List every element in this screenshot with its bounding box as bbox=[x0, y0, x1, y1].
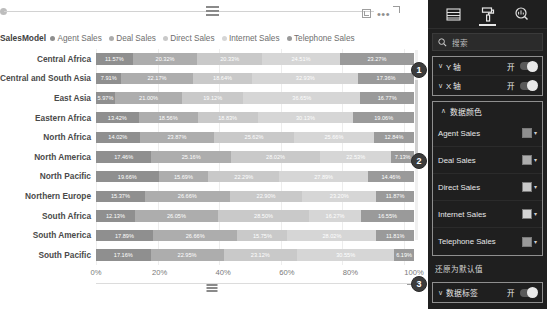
bar-segment[interactable]: 32.93% bbox=[252, 73, 358, 85]
chart-legend[interactable]: SalesModel Agent Sales Deal Sales Direct… bbox=[0, 31, 362, 45]
bar-segment[interactable]: 19.12% bbox=[182, 92, 243, 104]
bar-segment[interactable]: 16.55% bbox=[361, 210, 414, 222]
data-colors-header[interactable]: ∨ 数据颜色 bbox=[433, 102, 542, 120]
data-color-row[interactable]: Telephone Sales▾ bbox=[433, 228, 542, 255]
bar-segment[interactable]: 22.29% bbox=[208, 171, 279, 183]
bar-row[interactable]: South Africa12.13%26.05%28.50%16.27%16.5… bbox=[0, 206, 414, 226]
visual-header-actions[interactable]: ••• bbox=[362, 9, 390, 18]
bar-segment[interactable]: 24.51% bbox=[262, 53, 340, 65]
stacked-bar[interactable]: 17.46%25.16%28.02%22.53%7.13% bbox=[96, 151, 414, 163]
bar-row[interactable]: North Pacific19.66%15.69%22.29%27.89%14.… bbox=[0, 167, 414, 187]
bar-segment[interactable]: 23.20% bbox=[302, 191, 376, 203]
bar-segment[interactable]: 28.02% bbox=[287, 230, 376, 242]
bar-segment[interactable]: 36.65% bbox=[243, 92, 360, 104]
bar-segment[interactable]: 26.66% bbox=[153, 230, 238, 242]
bar-segment[interactable]: 11.81% bbox=[376, 230, 414, 242]
bar-segment[interactable]: 30.13% bbox=[258, 112, 354, 124]
bar-segment[interactable]: 11.57% bbox=[96, 53, 133, 65]
bar-segment[interactable]: 26.66% bbox=[145, 191, 230, 203]
data-color-row[interactable]: Agent Sales▾ bbox=[433, 120, 542, 147]
toggle-y-axis[interactable] bbox=[520, 62, 537, 70]
color-swatch-icon[interactable] bbox=[522, 209, 532, 219]
legend-item[interactable]: Deal Sales bbox=[109, 34, 163, 43]
chevron-up-icon[interactable]: ∨ bbox=[438, 107, 446, 115]
stacked-bar[interactable]: 17.16%22.95%23.12%30.55%6.19% bbox=[96, 249, 414, 261]
color-picker[interactable]: ▾ bbox=[522, 155, 537, 165]
chevron-down-icon[interactable]: ∨ bbox=[438, 289, 446, 297]
x-axis[interactable]: 0%20%40%60%80%100% bbox=[96, 266, 414, 288]
bar-segment[interactable]: 15.75% bbox=[237, 230, 287, 242]
color-swatch-icon[interactable] bbox=[522, 182, 532, 192]
bar-segment[interactable]: 20.32% bbox=[133, 53, 198, 65]
tab-fields[interactable] bbox=[444, 4, 463, 24]
stacked-bar[interactable]: 11.57%20.32%20.33%24.51%23.27% bbox=[96, 53, 414, 65]
chevron-down-icon[interactable]: ▾ bbox=[534, 184, 537, 190]
bar-segment[interactable]: 23.27% bbox=[340, 53, 414, 65]
bar-segment[interactable]: 11.87% bbox=[376, 191, 414, 203]
color-swatch-icon[interactable] bbox=[522, 128, 532, 138]
bar-row[interactable]: North America17.46%25.16%28.02%22.53%7.1… bbox=[0, 147, 414, 167]
legend-item[interactable]: Internet Sales bbox=[222, 34, 287, 43]
bar-segment[interactable]: 27.89% bbox=[279, 171, 368, 183]
chart-scrollbar[interactable] bbox=[415, 50, 418, 240]
bar-segment[interactable]: 14.02% bbox=[96, 132, 140, 144]
chevron-down-icon[interactable]: ∨ bbox=[438, 62, 446, 70]
chevron-down-icon[interactable]: ∨ bbox=[438, 82, 446, 90]
bar-segment[interactable]: 12.84% bbox=[374, 132, 414, 144]
restore-defaults-link[interactable]: 还原为默认值 bbox=[435, 263, 543, 274]
more-options-icon[interactable]: ••• bbox=[377, 11, 390, 17]
bar-segment[interactable]: 22.17% bbox=[121, 73, 192, 85]
bar-segment[interactable]: 15.37% bbox=[96, 191, 145, 203]
bar-row[interactable]: North Africa14.02%23.87%25.62%25.66%12.8… bbox=[0, 128, 414, 148]
legend-item[interactable]: Telephone Sales bbox=[287, 34, 362, 43]
data-color-row[interactable]: Internet Sales▾ bbox=[433, 201, 542, 228]
bar-segment[interactable]: 16.77% bbox=[360, 92, 414, 104]
option-row-x-axis[interactable]: ∨ X 轴 开 bbox=[433, 76, 542, 95]
bar-segment[interactable]: 22.95% bbox=[151, 249, 224, 261]
bar-segment[interactable]: 28.02% bbox=[231, 151, 320, 163]
stacked-bar[interactable]: 14.02%23.87%25.62%25.66%12.84% bbox=[96, 132, 414, 144]
bar-segment[interactable]: 7.91% bbox=[96, 73, 121, 85]
bar-row[interactable]: South Pacific17.16%22.95%23.12%30.55%6.1… bbox=[0, 245, 414, 265]
stacked-bar[interactable]: 17.89%26.66%15.75%28.02%11.81% bbox=[96, 230, 414, 242]
data-color-row[interactable]: Direct Sales▾ bbox=[433, 174, 542, 201]
chart-visual[interactable]: ••• SalesModel Agent Sales Deal Sales Di… bbox=[0, 0, 424, 309]
stacked-bar[interactable]: 5.97%21.00%19.12%36.65%16.77% bbox=[96, 92, 414, 104]
bar-segment[interactable]: 28.50% bbox=[218, 210, 309, 222]
resize-handle-bottom[interactable] bbox=[207, 284, 218, 288]
stacked-bar[interactable]: 7.91%22.17%18.64%32.93%17.36% bbox=[96, 73, 414, 85]
bar-row[interactable]: South America17.89%26.66%15.75%28.02%11.… bbox=[0, 226, 414, 246]
stacked-bar[interactable]: 15.37%26.66%22.90%23.20%11.87% bbox=[96, 191, 414, 203]
color-picker[interactable]: ▾ bbox=[522, 209, 537, 219]
toggle-data-labels[interactable] bbox=[520, 289, 537, 297]
stacked-bar[interactable]: 19.66%15.69%22.29%27.89%14.46% bbox=[96, 171, 414, 183]
bar-segment[interactable]: 18.83% bbox=[198, 112, 258, 124]
bar-segment[interactable]: 13.42% bbox=[96, 112, 139, 124]
chevron-down-icon[interactable]: ▾ bbox=[534, 239, 537, 245]
bar-segment[interactable]: 25.62% bbox=[214, 132, 294, 144]
bar-segment[interactable]: 12.13% bbox=[96, 210, 135, 222]
bar-segment[interactable]: 25.16% bbox=[151, 151, 231, 163]
chart-scrollbar-thumb[interactable] bbox=[415, 80, 418, 155]
color-picker[interactable]: ▾ bbox=[522, 182, 537, 192]
chevron-down-icon[interactable]: ▾ bbox=[534, 211, 537, 217]
bar-row[interactable]: Eastern Africa13.42%18.56%18.83%30.13%19… bbox=[0, 108, 414, 128]
option-row-y-axis[interactable]: ∨ Y 轴 开 bbox=[433, 57, 542, 76]
bar-segment[interactable]: 14.46% bbox=[368, 171, 414, 183]
bar-row[interactable]: East Asia5.97%21.00%19.12%36.65%16.77% bbox=[0, 88, 414, 108]
tab-format[interactable] bbox=[478, 4, 497, 24]
bar-segment[interactable]: 19.06% bbox=[353, 112, 414, 124]
bar-segment[interactable]: 17.16% bbox=[96, 249, 151, 261]
chevron-down-icon[interactable]: ▾ bbox=[534, 130, 537, 136]
option-row-data-labels[interactable]: ∨ 数据标签 开 bbox=[433, 283, 542, 302]
bar-segment[interactable]: 6.19% bbox=[394, 249, 414, 261]
toggle-x-axis[interactable] bbox=[520, 82, 537, 90]
bar-segment[interactable]: 26.05% bbox=[135, 210, 218, 222]
bar-row[interactable]: Central and South Asia7.91%22.17%18.64%3… bbox=[0, 69, 414, 89]
color-picker[interactable]: ▾ bbox=[522, 128, 537, 138]
legend-item[interactable]: Direct Sales bbox=[163, 34, 222, 43]
bar-segment[interactable]: 20.33% bbox=[197, 53, 262, 65]
stacked-bar[interactable]: 13.42%18.56%18.83%30.13%19.06% bbox=[96, 112, 414, 124]
bar-segment[interactable]: 5.97% bbox=[96, 92, 115, 104]
panel-tab-bar[interactable] bbox=[428, 0, 547, 29]
